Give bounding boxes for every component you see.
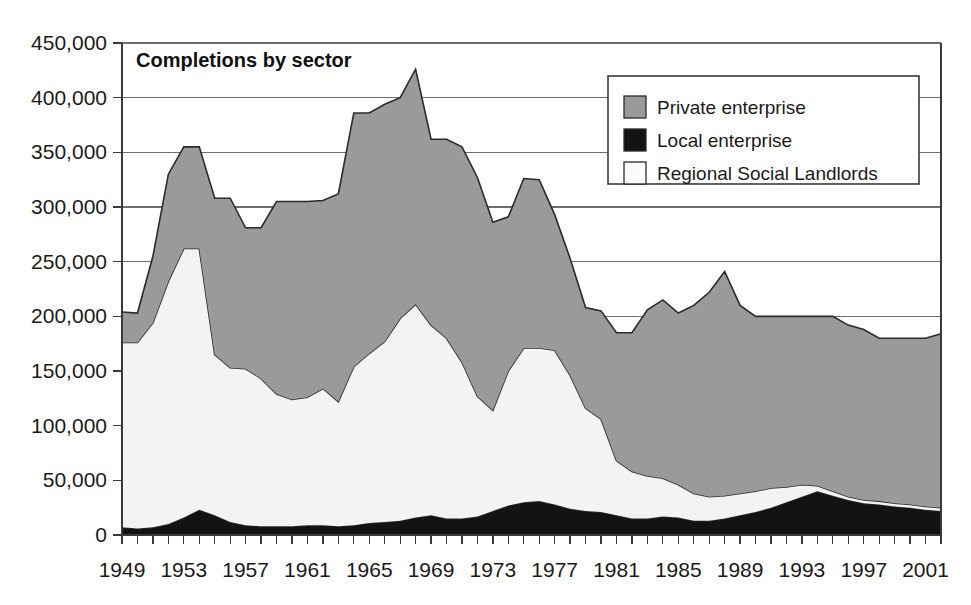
chart-title: Completions by sector [136, 49, 352, 71]
x-axis-tick-label: 1969 [408, 558, 455, 581]
chart-container: 050,000100,000150,000200,000250,000300,0… [0, 0, 971, 605]
legend-label: Local enterprise [657, 130, 792, 151]
x-axis-labels: 1949195319571961196519691973197719811985… [99, 558, 949, 581]
stacked-area-chart: 050,000100,000150,000200,000250,000300,0… [0, 0, 971, 605]
x-axis-tick-label: 1997 [840, 558, 887, 581]
x-axis-tick-label: 1989 [717, 558, 764, 581]
y-axis-tick-label: 100,000 [31, 414, 107, 437]
y-axis-tick-label: 150,000 [31, 359, 107, 382]
legend-label: Private enterprise [657, 97, 806, 118]
x-axis-tick-label: 1993 [779, 558, 826, 581]
x-axis-tick-label: 1953 [160, 558, 207, 581]
y-axis-tick-label: 200,000 [31, 304, 107, 327]
legend-swatch-regional-social-landlords [624, 162, 646, 184]
y-axis-tick-label: 250,000 [31, 250, 107, 273]
y-axis-labels: 050,000100,000150,000200,000250,000300,0… [31, 31, 107, 546]
x-axis-tick-label: 1949 [99, 558, 146, 581]
y-axis-tick-label: 0 [95, 523, 107, 546]
legend-swatch-local-enterprise [624, 129, 646, 151]
y-axis-tick-label: 450,000 [31, 31, 107, 54]
x-axis-tick-label: 2001 [902, 558, 949, 581]
chart-legend: Private enterpriseLocal enterpriseRegion… [608, 76, 919, 184]
x-axis-tick-label: 1957 [222, 558, 269, 581]
x-axis-tick-label: 1961 [284, 558, 331, 581]
x-axis-tick-label: 1965 [346, 558, 393, 581]
x-axis-tick-label: 1973 [470, 558, 517, 581]
chart-title-label: Completions by sector [136, 49, 352, 71]
y-axis-tick-label: 400,000 [31, 86, 107, 109]
x-axis-tick-label: 1981 [593, 558, 640, 581]
y-axis-tick-label: 300,000 [31, 195, 107, 218]
y-axis-tick-label: 50,000 [43, 468, 107, 491]
legend-swatch-private-enterprise [624, 96, 646, 118]
x-axis-tick-label: 1977 [531, 558, 578, 581]
y-axis-tick-label: 350,000 [31, 140, 107, 163]
legend-label: Regional Social Landlords [657, 163, 878, 184]
x-axis-tick-label: 1985 [655, 558, 702, 581]
